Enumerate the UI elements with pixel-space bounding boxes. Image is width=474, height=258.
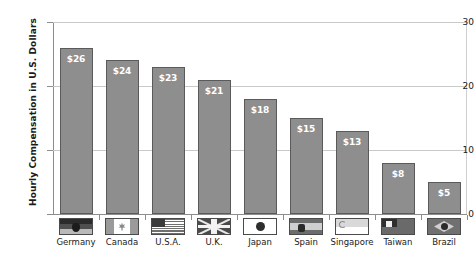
gridline bbox=[53, 22, 467, 23]
x-axis-category: U.S.A. bbox=[145, 218, 191, 247]
flag-usa-icon bbox=[151, 218, 185, 235]
bar-chart: Hourly Compensation in U.S. Dollars 0102… bbox=[0, 0, 474, 258]
x-tick-mark bbox=[467, 215, 468, 220]
flag-spain-icon bbox=[289, 218, 323, 235]
x-axis-category: Taiwan bbox=[375, 218, 421, 247]
x-axis-category: Japan bbox=[237, 218, 283, 247]
y-axis-title: Hourly Compensation in U.S. Dollars bbox=[28, 12, 38, 212]
bar-value-label: $24 bbox=[107, 66, 138, 76]
category-label: Brazil bbox=[421, 237, 467, 247]
y-tick-mark bbox=[47, 86, 53, 87]
bar: $8 bbox=[382, 163, 415, 214]
x-axis-line bbox=[53, 214, 467, 215]
bar-value-label: $5 bbox=[429, 188, 460, 198]
y-tick-mark bbox=[47, 214, 53, 215]
flag-germany-icon bbox=[59, 218, 93, 235]
bar-value-label: $18 bbox=[245, 105, 276, 115]
category-label: Singapore bbox=[329, 237, 375, 247]
category-label: Japan bbox=[237, 237, 283, 247]
y-tick-mark bbox=[47, 22, 53, 23]
flag-singapore-icon bbox=[335, 218, 369, 235]
y-tick-label: 20 bbox=[428, 81, 474, 91]
flag-canada-icon bbox=[105, 218, 139, 235]
x-axis-category: Canada bbox=[99, 218, 145, 247]
bar: $5 bbox=[428, 182, 461, 214]
category-label: U.K. bbox=[191, 237, 237, 247]
bar: $26 bbox=[60, 48, 93, 214]
category-label: Taiwan bbox=[375, 237, 421, 247]
bar-value-label: $13 bbox=[337, 137, 368, 147]
bar: $23 bbox=[152, 67, 185, 214]
bar-value-label: $15 bbox=[291, 124, 322, 134]
bar-value-label: $21 bbox=[199, 86, 230, 96]
bar-value-label: $23 bbox=[153, 73, 184, 83]
bar: $24 bbox=[106, 60, 139, 214]
bar: $13 bbox=[336, 131, 369, 214]
y-tick-label: 30 bbox=[428, 17, 474, 27]
category-label: Canada bbox=[99, 237, 145, 247]
flag-brazil-icon bbox=[427, 218, 461, 235]
x-axis-category: Germany bbox=[53, 218, 99, 247]
bar-value-label: $8 bbox=[383, 169, 414, 179]
category-label: U.S.A. bbox=[145, 237, 191, 247]
x-axis-category: Brazil bbox=[421, 218, 467, 247]
y-tick-label: 10 bbox=[428, 145, 474, 155]
y-axis-line bbox=[53, 22, 54, 215]
bar-value-label: $26 bbox=[61, 54, 92, 64]
x-axis-category: Spain bbox=[283, 218, 329, 247]
x-axis-category: Singapore bbox=[329, 218, 375, 247]
flag-uk-icon bbox=[197, 218, 231, 235]
bar: $21 bbox=[198, 80, 231, 214]
bar: $18 bbox=[244, 99, 277, 214]
y-tick-mark bbox=[47, 150, 53, 151]
x-axis-category: U.K. bbox=[191, 218, 237, 247]
flag-japan-icon bbox=[243, 218, 277, 235]
bar: $15 bbox=[290, 118, 323, 214]
category-label: Germany bbox=[53, 237, 99, 247]
category-label: Spain bbox=[283, 237, 329, 247]
flag-taiwan-icon bbox=[381, 218, 415, 235]
